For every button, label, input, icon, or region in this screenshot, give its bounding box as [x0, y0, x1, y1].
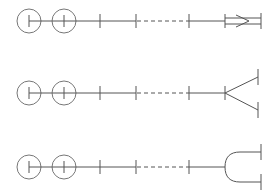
v-fork-lower	[225, 93, 258, 110]
rounded-fork-lower	[225, 167, 261, 182]
diagram-canvas	[0, 0, 272, 194]
rounded-fork-upper	[225, 152, 261, 167]
row-2	[17, 69, 258, 118]
row-3	[17, 144, 261, 190]
v-fork-upper	[225, 77, 258, 93]
row-1	[17, 9, 261, 33]
arrow-right-icon	[236, 15, 249, 27]
